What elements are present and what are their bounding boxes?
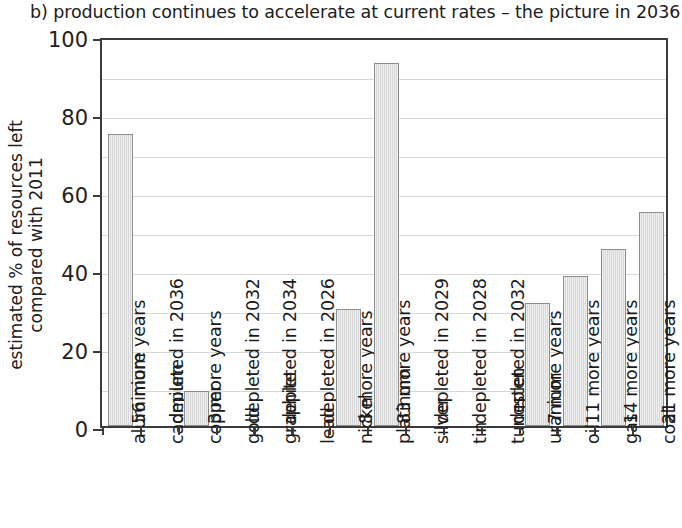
y-axis-tick-label: 20 [61, 340, 88, 364]
y-axis-tick-label: 80 [61, 106, 88, 130]
y-axis-tick-label: 0 [75, 418, 88, 442]
bar-value-label: 21 more years [659, 300, 679, 424]
bar-chart: estimated % of resources left compared w… [0, 0, 682, 528]
x-axis-tick [178, 426, 180, 435]
x-axis-tick [481, 426, 483, 435]
x-axis-tick [594, 426, 596, 435]
y-axis-tick-label: 60 [61, 184, 88, 208]
y-axis-tick [93, 273, 102, 275]
x-axis-tick [556, 426, 558, 435]
x-axis-category-label: copper [205, 385, 225, 444]
y-axis-title: estimated % of resources left compared w… [8, 50, 44, 440]
x-axis-category-label: coal [659, 409, 679, 444]
y-axis-tick [93, 117, 102, 119]
x-axis-tick [291, 426, 293, 435]
y-axis-title-line1: estimated % of resources left [6, 120, 26, 370]
x-axis-tick [329, 426, 331, 435]
y-axis-tick-label: 40 [61, 262, 88, 286]
x-axis-tick [102, 426, 104, 435]
y-axis-tick-label: 100 [48, 28, 88, 52]
y-axis-tick [93, 39, 102, 41]
y-axis-title-line2: compared with 2011 [26, 120, 46, 370]
x-axis-category-label: silver [432, 398, 452, 444]
x-axis-tick [443, 426, 445, 435]
y-axis-tick [93, 351, 102, 353]
x-axis-tick [632, 426, 634, 435]
bar-value-label: depleted in 2032 [243, 278, 263, 424]
y-axis-tick [93, 195, 102, 197]
bar-value-label: depleted in 2028 [470, 278, 490, 424]
x-axis-tick [140, 426, 142, 435]
x-axis-tick [216, 426, 218, 435]
x-axis-tick [253, 426, 255, 435]
y-axis-tick [93, 429, 102, 431]
x-axis-tick [405, 426, 407, 435]
x-axis-tick [367, 426, 369, 435]
plot-area: 02040608010056 more yearsaluminiumdeplet… [100, 38, 668, 428]
x-axis-tick [519, 426, 521, 435]
